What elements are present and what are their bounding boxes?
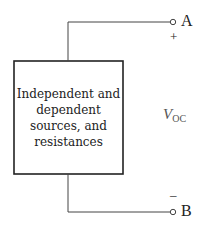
terminal-b-node	[170, 209, 175, 214]
terminal-b-label: B	[181, 202, 192, 220]
block-line: resistances	[34, 134, 103, 150]
block-line: sources, and	[30, 118, 107, 134]
block-line: dependent	[36, 102, 101, 118]
terminal-a-node	[170, 19, 175, 24]
terminal-a-label: A	[181, 12, 193, 30]
block-line: Independent and	[17, 86, 120, 102]
voltage-symbol: V	[163, 106, 172, 122]
wire-bottom	[68, 174, 170, 212]
plus-sign: +	[170, 29, 177, 45]
voltage-label: VOC	[163, 106, 186, 124]
minus-sign: –	[170, 187, 177, 203]
wire-top	[68, 22, 170, 61]
network-block-label: Independent and dependent sources, and r…	[15, 62, 122, 173]
voltage-subscript: OC	[172, 113, 186, 124]
